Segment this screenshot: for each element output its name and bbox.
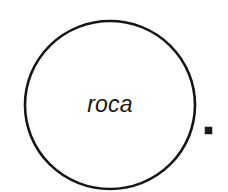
drawing-canvas: roca [0,0,228,192]
circle-label: roca [87,91,133,117]
small-square-marker [205,127,212,134]
figure-svg: roca [0,0,228,192]
